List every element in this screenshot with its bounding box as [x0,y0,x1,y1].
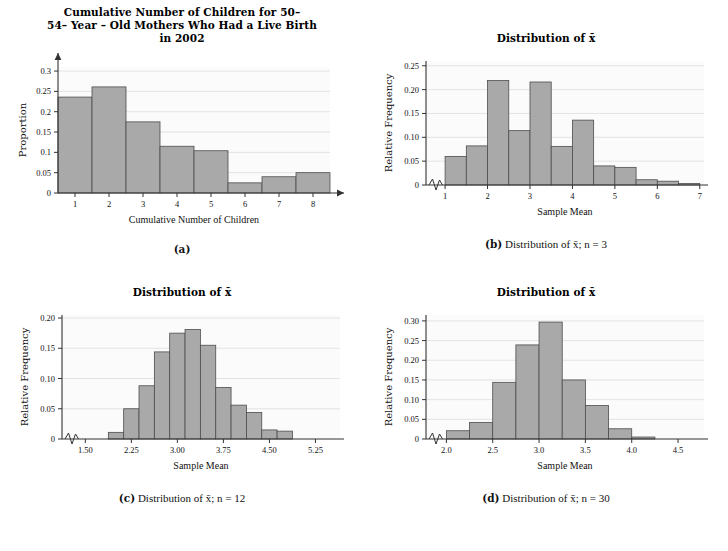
histogram-bar [509,131,530,185]
x-axis-title: Cumulative Number of Children [129,214,259,225]
histogram-bar [636,180,657,185]
panel-c-plot: 00.050.100.150.201.502.253.003.754.505.2… [0,299,364,484]
y-tick-label: 0.05 [40,404,55,414]
x-axis-arrow [337,190,344,197]
x-tick-label: 3.0 [534,445,545,455]
panel-a-caption-label: (a) [174,243,191,255]
y-tick-label: 0.25 [36,86,51,96]
histogram-bar [516,345,539,439]
panel-d-caption-text: Distribution of x̄; n = 30 [502,492,609,504]
panel-c-svg: 00.050.100.150.201.502.253.003.754.505.2… [0,299,364,484]
panel-a-title-line2: 54– Year – Old Mothers Who Had a Live Bi… [0,19,364,32]
histogram-bar [296,173,330,193]
histogram-bar [466,146,487,185]
histogram-bar [194,151,228,193]
x-tick-label: 4 [175,199,180,209]
y-tick-label: 0.15 [404,375,419,385]
y-tick-label: 0.10 [404,395,419,405]
histogram-bar [446,431,469,439]
x-tick-label: 7 [277,199,281,209]
histogram-bar [262,430,277,439]
x-tick-label: 2.5 [487,445,498,455]
panel-c-title: Distribution of x̄ [0,286,364,299]
panel-a-title-line3: in 2002 [0,32,364,45]
panel-a: Cumulative Number of Children for 50– 54… [0,6,364,276]
histogram-bar [124,409,139,439]
x-tick-label: 4 [570,191,575,201]
panel-c-title-text: Distribution of x̄ [133,286,232,298]
histogram-bar [262,177,296,193]
panel-d-plot: 00.050.100.150.200.250.302.02.53.03.54.0… [364,299,728,484]
panel-a-title: Cumulative Number of Children for 50– 54… [0,6,364,45]
x-axis-title: Sample Mean [537,460,592,471]
y-tick-label: 0.15 [36,127,51,137]
x-tick-label: 5 [613,191,617,201]
x-tick-label: 2 [485,191,489,201]
x-tick-label: 4.5 [673,445,684,455]
y-tick-label: 0.1 [40,147,51,157]
x-tick-label: 2.25 [124,445,139,455]
y-tick-label: 0.10 [404,132,419,142]
y-tick-label: 0.20 [404,355,419,365]
histogram-bar [277,431,292,439]
panel-b-plot: 00.050.100.150.200.251234567Sample MeanR… [364,45,728,230]
histogram-bar [615,167,636,185]
panel-c-caption-text: Distribution of x̄; n = 12 [138,492,245,504]
panel-b-caption: (b) Distribution of x̄; n = 3 [364,238,728,250]
x-tick-label: 3 [141,199,145,209]
panel-a-caption: (a) [0,243,364,255]
y-tick-label: 0.2 [40,107,51,117]
y-tick-label: 0.25 [404,61,419,71]
y-tick-label: 0.3 [40,66,51,76]
histogram-bar [609,429,632,439]
y-tick-label: 0 [51,434,55,444]
histogram-bar [246,412,261,439]
panel-a-plot: 00.050.10.150.20.250.312345678Cumulative… [0,45,364,225]
x-axis-title: Sample Mean [537,206,592,217]
x-tick-label: 2.0 [441,445,452,455]
histogram-bar [160,146,194,193]
x-tick-label: 4.50 [262,445,277,455]
panel-d-caption-label: (d) [482,492,499,504]
y-axis-title: Relative Frequency [19,327,30,426]
histogram-bar [539,322,562,439]
x-tick-label: 5 [209,199,213,209]
histogram-bar [185,330,200,439]
x-tick-label: 3.00 [170,445,185,455]
panel-c-caption-label: (c) [119,492,135,504]
panel-b-svg: 00.050.100.150.200.251234567Sample MeanR… [364,45,728,230]
panel-b-caption-text: Distribution of x̄; n = 3 [505,238,607,250]
x-tick-label: 6 [243,199,247,209]
histogram-bar [530,82,551,185]
x-tick-label: 8 [311,199,315,209]
y-tick-label: 0.20 [40,313,55,323]
y-axis-arrow [55,53,62,60]
y-tick-label: 0.25 [404,336,419,346]
histogram-bar [585,406,608,439]
y-tick-label: 0 [415,180,419,190]
histogram-bar [200,345,215,439]
histogram-bar [216,388,231,439]
panel-a-title-line1: Cumulative Number of Children for 50– [0,6,364,19]
histogram-bar [488,81,509,185]
histogram-bar [154,352,169,439]
x-tick-label: 1.50 [78,445,93,455]
histogram-bar [493,382,516,439]
y-tick-label: 0.05 [404,414,419,424]
histogram-bar [551,146,572,185]
x-axis-title: Sample Mean [173,460,228,471]
x-tick-label: 3 [528,191,532,201]
panel-a-svg: 00.050.10.150.20.250.312345678Cumulative… [0,45,364,225]
y-tick-label: 0.05 [36,168,51,178]
panel-d-title-text: Distribution of x̄ [497,286,596,298]
y-tick-label: 0 [415,434,419,444]
y-tick-label: 0.20 [404,85,419,95]
histogram-bar [228,183,262,193]
y-tick-label: 0.10 [40,374,55,384]
x-tick-label: 6 [655,191,659,201]
panel-d-caption: (d) Distribution of x̄; n = 30 [364,492,728,504]
histogram-bar [470,422,493,439]
x-tick-label: 3.75 [216,445,231,455]
panel-b: Distribution of x̄ 00.050.100.150.200.25… [364,32,728,282]
x-tick-label: 1 [443,191,447,201]
